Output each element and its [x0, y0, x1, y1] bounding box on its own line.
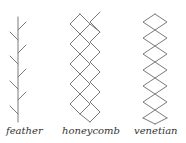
feather-pattern — [10, 17, 26, 122]
stitch-patterns-figure — [0, 0, 186, 143]
venetian-pattern — [143, 14, 167, 124]
feather-label: feather — [6, 125, 43, 136]
honeycomb-pattern — [70, 12, 100, 122]
venetian-label: venetian — [134, 125, 178, 136]
honeycomb-label: honeycomb — [62, 125, 120, 136]
